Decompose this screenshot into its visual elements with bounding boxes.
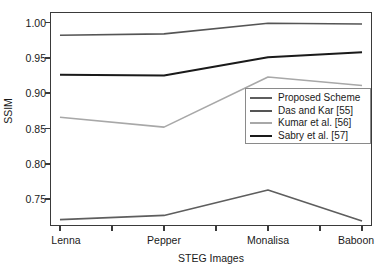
x-axis-title: STEG Images <box>50 252 372 264</box>
legend-item: Kumar et al. [56] <box>250 117 366 130</box>
legend-item-label: Kumar et al. [56] <box>278 118 351 128</box>
y-axis-tick-label: 0.90 <box>12 88 46 99</box>
legend-item-label: Sabry et al. [57] <box>278 131 348 141</box>
series-line <box>60 52 362 75</box>
legend-swatch-line-icon <box>250 97 272 99</box>
y-axis-tick-labels: 1.000.950.900.850.800.75 <box>8 0 46 270</box>
legend-swatch-line-icon <box>250 135 272 138</box>
x-axis-tick-label: Baboon <box>338 234 374 246</box>
y-axis-tick-label: 0.95 <box>12 53 46 64</box>
x-axis-tick-mark <box>215 226 217 231</box>
legend-item: Proposed Scheme <box>250 92 366 105</box>
x-axis-tick-mark <box>111 226 113 231</box>
x-axis-tick-mark <box>163 226 165 231</box>
legend-item-label: Das and Kar [55] <box>278 106 353 116</box>
y-axis-tick-label: 0.75 <box>12 194 46 205</box>
legend-item: Das and Kar [55] <box>250 105 366 118</box>
chart-container: SSIM 1.000.950.900.850.800.75 LennaPeppe… <box>0 0 378 270</box>
legend-item: Sabry et al. [57] <box>250 130 366 143</box>
y-axis-tick-label: 0.85 <box>12 124 46 135</box>
legend-swatch-line-icon <box>250 110 272 112</box>
legend-item-label: Proposed Scheme <box>278 93 360 103</box>
x-axis-tick-mark <box>59 226 61 231</box>
y-axis-tick-label: 1.00 <box>12 18 46 29</box>
x-axis-tick-mark <box>267 226 269 231</box>
x-axis-tick-label: Monalisa <box>247 234 289 246</box>
series-line <box>60 190 362 221</box>
legend-swatch-line-icon <box>250 122 272 124</box>
chart-legend: Proposed SchemeDas and Kar [55]Kumar et … <box>245 88 371 144</box>
x-axis-tick-label: Lenna <box>51 234 80 246</box>
x-axis-tick-mark <box>319 226 321 231</box>
series-line <box>60 23 362 35</box>
y-axis-tick-label: 0.80 <box>12 159 46 170</box>
x-axis-tick-mark <box>361 226 363 231</box>
x-axis-tick-label: Pepper <box>147 234 181 246</box>
